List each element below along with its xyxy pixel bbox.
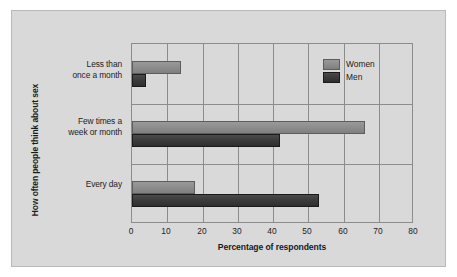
x-tick-label: 40: [267, 226, 276, 236]
x-tick-label: 0: [129, 226, 134, 236]
legend-swatch-women-icon: [323, 59, 340, 70]
x-tick-label: 20: [197, 226, 206, 236]
legend: Women Men: [323, 58, 393, 84]
bar-women-0: [132, 61, 181, 74]
chart-figure: How often people think about sex Less th…: [0, 0, 457, 277]
gridline-horizontal: [132, 104, 412, 105]
x-tick-label: 30: [232, 226, 241, 236]
gridline-horizontal: [132, 164, 412, 165]
category-axis-labels: Less than once a month Few times a week …: [30, 11, 122, 266]
bar-men-0: [132, 74, 146, 87]
category-label-less-than-once-a-month: Less than once a month: [30, 59, 122, 81]
category-label-every-day: Every day: [30, 179, 122, 190]
bar-women-2: [132, 181, 195, 194]
x-axis-title: Percentage of respondents: [131, 242, 413, 252]
category-label-line: once a month: [30, 70, 122, 81]
x-axis-tick-labels: 01020304050607080: [131, 226, 413, 240]
legend-swatch-men-icon: [323, 72, 340, 83]
x-tick-label: 10: [161, 226, 170, 236]
x-tick-label: 70: [373, 226, 382, 236]
category-label-line: Every day: [30, 179, 122, 190]
bar-women-1: [132, 121, 365, 134]
x-tick-label: 60: [338, 226, 347, 236]
x-tick-label: 50: [302, 226, 311, 236]
legend-label-men: Men: [346, 72, 362, 83]
bar-men-1: [132, 134, 280, 147]
chart-panel: How often people think about sex Less th…: [11, 10, 446, 267]
legend-item-men: Men: [323, 71, 393, 84]
category-label-few-times-a-week-or-month: Few times a week or month: [30, 116, 122, 138]
bar-men-2: [132, 194, 319, 207]
legend-label-women: Women: [346, 59, 375, 70]
legend-item-women: Women: [323, 58, 393, 71]
category-label-line: Few times a: [30, 116, 122, 127]
category-label-line: week or month: [30, 127, 122, 138]
x-tick-label: 80: [408, 226, 417, 236]
category-label-line: Less than: [30, 59, 122, 70]
